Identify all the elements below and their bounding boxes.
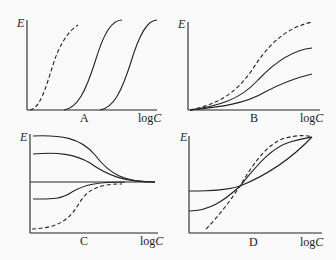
panel-c-y-label: E <box>19 130 28 144</box>
panel-c: E C logC <box>19 130 164 248</box>
panel-a-curve-2 <box>100 20 157 110</box>
panel-a-y-label: E <box>16 16 25 30</box>
panel-c-label: C <box>80 234 88 248</box>
panel-c-dashed-curve <box>32 184 122 229</box>
panel-d-curve-high-baseline <box>189 137 312 191</box>
panel-b-y-label: E <box>177 17 186 31</box>
panel-d-y-label: E <box>179 130 188 144</box>
panel-c-curve-top <box>33 136 155 182</box>
panel-b-x-label: logC <box>300 111 324 125</box>
panel-a-x-label: logC <box>138 111 162 125</box>
panel-b-dashed-curve <box>190 22 312 110</box>
panel-d-x-label: logC <box>300 235 324 249</box>
panel-c-curve-lower <box>33 182 125 199</box>
panel-d-dashed-curve <box>206 136 312 229</box>
panel-b-label: B <box>250 111 258 125</box>
panel-d-label: D <box>249 235 258 249</box>
panel-b-curve-2 <box>190 74 312 110</box>
panel-d: E D logC <box>179 130 324 249</box>
panel-a: E A logC <box>16 16 162 125</box>
panel-c-curve-upper <box>33 153 155 182</box>
figure-canvas: E A logC E B logC E C logC E D logC <box>0 0 336 260</box>
panel-a-label: A <box>80 111 89 125</box>
panel-a-dashed-curve <box>30 25 78 110</box>
panel-d-curve-mid-baseline <box>189 137 312 211</box>
panel-b: E B logC <box>177 17 324 125</box>
panel-a-curve-1 <box>64 20 122 110</box>
panel-c-x-label: logC <box>140 234 164 248</box>
